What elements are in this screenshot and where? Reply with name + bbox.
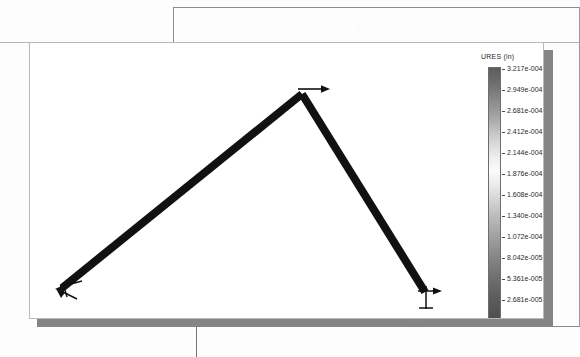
legend-tick-mark [502, 153, 505, 154]
legend-tick-mark [502, 132, 505, 133]
legend-tick-label: 5.361e-005 [507, 274, 542, 284]
left-member [62, 94, 302, 288]
legend-tick-label: 1.608e-004 [507, 190, 542, 200]
legend-tick-label: 1.876e-004 [507, 169, 542, 179]
scanned-page: URES (in) 3.217e-004 2.949e-004 2.681e-0… [0, 0, 580, 357]
legend-tick-mark [502, 279, 505, 280]
apex-load-arrow-icon [298, 85, 330, 93]
document-rule-vertical-upper [173, 7, 174, 43]
legend-tick-mark [502, 258, 505, 259]
legend-tick-mark [502, 69, 505, 70]
document-rule-vertical-lower [196, 327, 197, 357]
fea-result-figure: URES (in) 3.217e-004 2.949e-004 2.681e-0… [29, 42, 544, 319]
right-member [302, 94, 425, 292]
legend-tick-label: 1.340e-004 [507, 211, 542, 221]
legend-title: URES (in) [481, 53, 514, 60]
legend-tick-mark [502, 237, 505, 238]
legend-tick-label: 1.072e-004 [507, 232, 542, 242]
legend-tick-mark [502, 174, 505, 175]
legend-tick-label: 2.949e-004 [507, 85, 542, 95]
legend-tick-label: 8.042e-005 [507, 253, 542, 263]
legend-tick-mark [502, 90, 505, 91]
legend-tick-label: 2.681e-005 [507, 295, 542, 305]
legend-tick-mark [502, 195, 505, 196]
results-legend: URES (in) 3.217e-004 2.949e-004 2.681e-0… [454, 49, 542, 319]
legend-tick-label: 3.217e-004 [507, 64, 542, 74]
legend-tick-mark [502, 111, 505, 112]
legend-tick-label: 2.681e-004 [507, 106, 542, 116]
document-rule-top [173, 7, 580, 8]
legend-tick-mark [502, 216, 505, 217]
legend-tick-label: 3.937e-032 [507, 316, 542, 319]
legend-tick-label: 2.412e-004 [507, 127, 542, 137]
legend-tick-list: 3.217e-004 2.949e-004 2.681e-004 2.412e-… [488, 67, 542, 319]
legend-tick-mark [502, 300, 505, 301]
legend-tick-label: 2.144e-004 [507, 148, 542, 158]
